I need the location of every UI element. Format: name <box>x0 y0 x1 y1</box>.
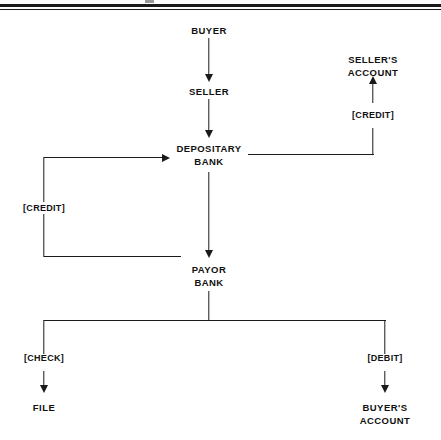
edge-seller-to-depositary-arrowhead <box>205 130 213 138</box>
edge-depositary-to-payor-line <box>208 172 209 252</box>
diagram-canvas: BUYER SELLER DEPOSITARY BANK [CREDIT] SE… <box>0 0 441 440</box>
node-sellers-account-label-line2: ACCOUNT <box>348 66 399 79</box>
label-credit-depositary-bank: [CREDIT] <box>20 202 68 214</box>
edge-depositary-to-sellers-account-horizontal <box>248 154 374 155</box>
edge-depositary-to-sellers-account-vertical-upper <box>372 83 373 103</box>
node-sellers-account-label-line1: SELLER'S <box>348 53 399 66</box>
node-buyer: BUYER <box>191 24 227 37</box>
edge-buyer-to-seller-arrowhead <box>205 74 213 82</box>
node-payor-bank-label-line1: PAYOR <box>192 263 226 276</box>
node-file: FILE <box>33 401 55 414</box>
label-check: [CHECK] <box>24 353 64 363</box>
node-depositary-bank-label-line2: BANK <box>176 155 241 168</box>
edge-split-to-debit-vertical <box>384 320 385 354</box>
edge-payor-to-depositary-top-horizontal <box>44 157 163 158</box>
edge-depositary-to-payor-arrowhead <box>205 250 213 258</box>
edge-buyer-to-seller-line <box>208 38 209 76</box>
edge-payor-to-split-line <box>208 291 209 321</box>
node-buyers-account-label-line2: ACCOUNT <box>360 414 411 427</box>
node-depositary-bank: DEPOSITARY BANK <box>176 142 241 168</box>
node-payor-bank-label-line2: BANK <box>192 276 226 289</box>
edge-check-to-file-arrowhead <box>40 385 48 393</box>
edge-payor-to-depositary-arrowhead <box>162 154 170 162</box>
node-payor-bank: PAYOR BANK <box>192 263 226 289</box>
edge-seller-to-depositary-line <box>208 99 209 132</box>
node-buyers-account: BUYER'S ACCOUNT <box>360 401 411 427</box>
divider-thick-line <box>0 4 441 7</box>
node-depositary-bank-label-line1: DEPOSITARY <box>176 142 241 155</box>
edge-depositary-to-sellers-account-vertical <box>372 128 373 155</box>
edge-debit-to-buyers-account-arrowhead <box>381 385 389 393</box>
edge-payor-to-depositary-bottom-horizontal <box>44 256 181 257</box>
split-bar-horizontal <box>44 320 386 321</box>
node-sellers-account: SELLER'S ACCOUNT <box>348 53 399 79</box>
divider-thin-line <box>0 9 441 10</box>
node-buyers-account-label-line1: BUYER'S <box>360 401 411 414</box>
edge-split-to-check-vertical <box>43 320 44 354</box>
label-credit-sellers-account: [CREDIT] <box>352 110 394 120</box>
label-debit: [DEBIT] <box>367 353 402 363</box>
scan-artifact-mark <box>145 0 154 3</box>
top-divider-rule <box>0 4 441 11</box>
node-seller: SELLER <box>189 85 229 98</box>
